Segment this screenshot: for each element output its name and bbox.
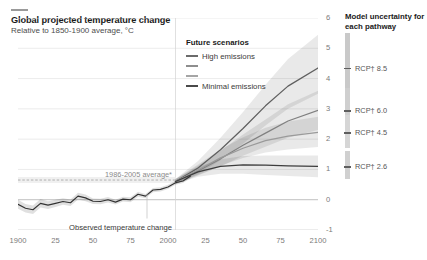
legend-item[interactable]: Minimal emissions (186, 81, 266, 91)
x-tick-label: 2000 (151, 236, 185, 245)
uncertainty-center-tick (344, 132, 351, 133)
uncertainty-center-tick (344, 110, 351, 111)
uncertainty-label: RCP† 2.6 (355, 162, 387, 171)
y-tick-label: 5 (326, 43, 330, 52)
legend-swatch-icon (186, 55, 198, 57)
uncertainty-bar (345, 151, 350, 178)
uncertainty-marker: RCP† 8.5 (345, 63, 387, 100)
uncertainty-markers: RCP† 8.5RCP† 6.0RCP† 4.5RCP† 2.6 (345, 52, 427, 177)
y-tick-label: -1 (326, 225, 333, 234)
y-tick-label: 0 (326, 195, 330, 204)
right-panel-title-wrap: Model uncertainty for each pathway (345, 12, 425, 32)
uncertainty-label: RCP† 8.5 (355, 64, 387, 73)
uncertainty-marker: RCP† 4.5 (345, 127, 387, 148)
chart-svg (18, 18, 318, 230)
uncertainty-label: RCP† 4.5 (355, 128, 387, 137)
legend-item[interactable]: High emissions (186, 51, 266, 61)
legend-rows: High emissionsMinimal emissions (186, 51, 266, 91)
x-tick-label: 2100 (301, 236, 335, 245)
x-tick-label: 25 (39, 236, 73, 245)
chart-container: Global projected temperature change Rela… (0, 0, 427, 260)
x-tick-label: 75 (114, 236, 148, 245)
uncertainty-center-tick (344, 166, 351, 167)
legend-item[interactable] (186, 61, 266, 71)
legend-swatch-icon (186, 75, 198, 77)
x-tick-label: 75 (264, 236, 298, 245)
x-tick-label: 50 (226, 236, 260, 245)
y-tick-label: 3 (326, 104, 330, 113)
x-tick-label: 1900 (1, 236, 35, 245)
x-tick-label: 50 (76, 236, 110, 245)
legend-title: Future scenarios (186, 38, 266, 47)
legend-swatch-icon (186, 85, 198, 87)
y-tick-label: 2 (326, 134, 330, 143)
legend-item-label: High emissions (202, 52, 255, 61)
y-tick-label: 6 (326, 13, 330, 22)
uncertainty-bar (345, 115, 350, 148)
right-panel-title: Model uncertainty for each pathway (345, 12, 425, 32)
plot-area: -10123456 190025507520002550752100 (18, 18, 318, 230)
legend-item-label: Minimal emissions (202, 82, 266, 91)
top-rule (11, 9, 28, 11)
uncertainty-label: RCP† 6.0 (355, 106, 387, 115)
legend: Future scenarios High emissionsMinimal e… (186, 38, 266, 91)
y-tick-label: 4 (326, 74, 330, 83)
uncertainty-marker: RCP† 2.6 (345, 161, 387, 178)
uncertainty-center-tick (344, 68, 351, 69)
legend-swatch-icon (186, 65, 198, 67)
x-tick-label: 25 (189, 236, 223, 245)
observed-annotation: Observed temperature change (69, 223, 172, 232)
legend-item[interactable] (186, 71, 266, 81)
baseline-annotation: 1986-2005 average* (105, 170, 172, 179)
y-tick-label: 1 (326, 164, 330, 173)
